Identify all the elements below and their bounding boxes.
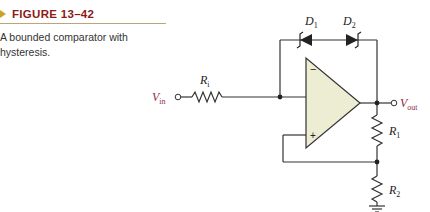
d2-label: D2 — [342, 14, 356, 30]
resistor-ri-icon — [192, 92, 222, 102]
ground-icon — [369, 206, 385, 212]
circuit-schematic: − + D1 D2 Ri Vin Vout R1 R2 — [0, 0, 430, 212]
r1-label: R1 — [388, 124, 400, 140]
ri-label: Ri — [199, 73, 210, 89]
resistor-r1-icon — [372, 115, 382, 146]
r2-label: R2 — [388, 183, 400, 199]
input-terminal-icon — [175, 94, 181, 100]
resistor-r2-icon — [372, 176, 382, 202]
output-terminal-icon — [391, 100, 397, 106]
inverting-input-symbol: − — [310, 63, 316, 75]
vout-label: Vout — [400, 96, 418, 112]
vin-label: Vin — [152, 90, 166, 106]
noninverting-input-symbol: + — [310, 130, 316, 141]
d1-label: D1 — [304, 14, 318, 30]
